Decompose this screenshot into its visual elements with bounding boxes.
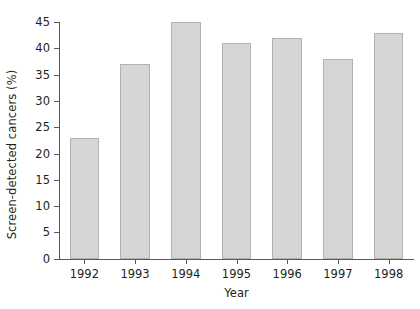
y-tick-label: 35 [35,68,50,82]
y-tick-label: 0 [43,252,50,266]
y-tick-20: 20 [54,154,59,155]
bar-1996 [272,38,302,259]
x-tick-1997 [338,259,339,264]
y-tick-30: 30 [54,101,59,102]
y-tick-5: 5 [54,232,59,233]
x-tick-label-1995: 1995 [222,267,251,281]
x-tick-label-1993: 1993 [120,267,149,281]
x-tick-label-1997: 1997 [323,267,352,281]
plot-area: 051015202530354045 199219931994199519961… [59,22,414,260]
x-tick-label-1998: 1998 [374,267,403,281]
x-tick-label-1996: 1996 [273,267,302,281]
y-tick-0: 0 [54,259,59,260]
y-tick-label: 15 [35,173,50,187]
x-tick-1993 [135,259,136,264]
y-tick-45: 45 [54,22,59,23]
bar-1994 [171,22,201,259]
y-tick-label: 40 [35,41,50,55]
y-tick-10: 10 [54,206,59,207]
y-tick-label: 45 [35,15,50,29]
y-tick-15: 15 [54,180,59,181]
bar-1992 [70,138,100,259]
x-tick-label-1992: 1992 [70,267,99,281]
bar-1995 [222,43,252,259]
x-tick-1992 [84,259,85,264]
x-axis-title: Year [59,286,414,300]
y-tick-40: 40 [54,48,59,49]
y-tick-label: 30 [35,94,50,108]
y-tick-label: 25 [35,120,50,134]
x-tick-1994 [186,259,187,264]
y-tick-label: 20 [35,147,50,161]
x-tick-label-1994: 1994 [171,267,200,281]
x-tick-1998 [389,259,390,264]
x-tick-1995 [237,259,238,264]
y-tick-label: 10 [35,199,50,213]
bar-1998 [374,33,404,259]
y-tick-label: 5 [43,225,50,239]
bar-1997 [323,59,353,259]
y-axis-line [59,22,60,260]
y-tick-25: 25 [54,127,59,128]
bar-chart: Screen-detected cancers (%) 051015202530… [0,0,420,309]
x-tick-1996 [287,259,288,264]
y-tick-35: 35 [54,75,59,76]
bar-1993 [120,64,150,259]
y-axis-title: Screen-detected cancers (%) [0,0,24,309]
